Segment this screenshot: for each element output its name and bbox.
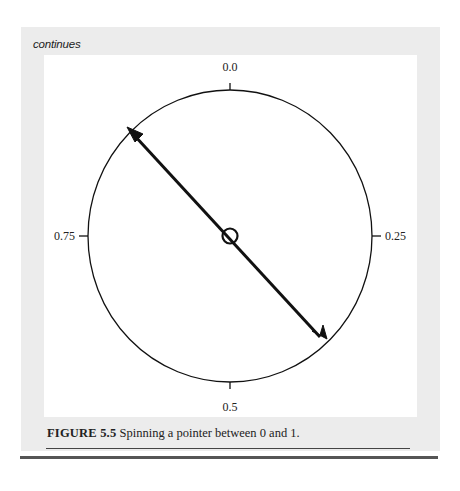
figure-number: FIGURE 5.5	[47, 426, 116, 440]
pointer-shaft	[134, 135, 320, 337]
figure-caption: FIGURE 5.5 Spinning a pointer between 0 …	[47, 426, 300, 441]
figure-canvas: 0.0 0.5 0.75 0.25	[44, 55, 417, 417]
pointer-arrowhead-icon	[127, 127, 143, 142]
label-left: 0.75	[54, 229, 75, 243]
continues-label: continues	[33, 38, 80, 50]
label-right: 0.25	[385, 229, 406, 243]
label-bottom: 0.5	[223, 400, 238, 414]
figure-caption-text: Spinning a pointer between 0 and 1.	[120, 426, 300, 440]
spinner-diagram: 0.0 0.5 0.75 0.25	[44, 55, 417, 417]
section-end-bar	[20, 456, 438, 459]
caption-divider	[46, 448, 410, 449]
label-top: 0.0	[223, 60, 238, 74]
